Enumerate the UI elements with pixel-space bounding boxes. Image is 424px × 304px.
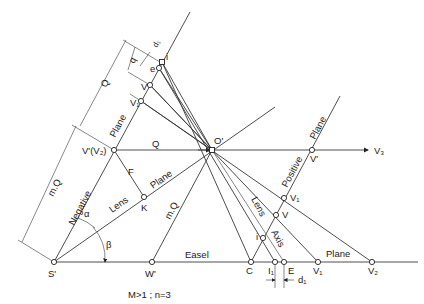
label-negative-plane: Plane [107, 112, 128, 139]
label-f: F [128, 166, 134, 177]
point-v2-bottom [369, 259, 374, 264]
line-labels: Easel Plane Negative Plane Lens Plane Po… [66, 112, 350, 260]
point-c [248, 259, 253, 264]
point-i-right [260, 235, 265, 240]
label-v1-right: V₁ [290, 192, 300, 203]
label-q-horizontal: Q [152, 138, 159, 149]
label-c: C [246, 265, 253, 276]
label-e-top: e [150, 63, 155, 74]
dimension-labels: Q m.Q Q m.Q q d₁ d₁ [45, 38, 306, 285]
point-v-prime-right [309, 147, 314, 152]
angle-labels: α β [84, 208, 112, 250]
label-mq-diag: m.Q [162, 200, 180, 221]
label-e: E [288, 265, 294, 276]
label-w-prime: W' [145, 268, 156, 279]
point-k [141, 194, 146, 199]
label-beta: β [106, 239, 112, 250]
point-v-right [273, 212, 278, 217]
label-d1-bottom: d₁ [298, 274, 307, 285]
label-k: K [141, 202, 148, 213]
label-v2-bottom: V₂ [368, 265, 378, 276]
label-mq-left: m.Q [45, 177, 63, 198]
point-v-prime-v2 [111, 147, 116, 152]
label-i-right: i [256, 231, 258, 242]
label-v-prime-right: V' [310, 153, 318, 164]
label-v3: V₃ [374, 145, 384, 156]
label-o-prime: O' [214, 135, 223, 146]
point-labels: S' W' O' V'(V₂) V' V₃ K F C I₁ E V₁ V₂ i… [48, 51, 384, 279]
point-v-top [147, 82, 152, 87]
label-d1-top: d₁ [151, 38, 162, 49]
points [51, 60, 374, 265]
label-q-left: Q [98, 77, 111, 89]
point-s-prime [51, 259, 56, 264]
point-i1 [272, 259, 277, 264]
angle-arcs [78, 218, 105, 262]
label-v1-bottom: V₁ [313, 265, 323, 276]
mq-line [152, 150, 212, 262]
point-e [281, 259, 286, 264]
label-i-top: i [166, 51, 168, 62]
label-positive-plane: Plane [307, 114, 328, 141]
label-positive: Positive [279, 154, 304, 189]
point-v1-right [281, 195, 286, 200]
label-alpha: α [84, 208, 90, 219]
label-i1: I₁ [268, 265, 274, 276]
label-v-right: V [282, 209, 289, 220]
label-easel: Easel [185, 249, 209, 260]
point-e-top [156, 65, 161, 70]
label-easel-plane: Plane [326, 248, 350, 259]
label-v1-top: V₁ [130, 97, 140, 108]
label-lens-axis-axis: Axis [269, 228, 287, 249]
label-v-prime-v2: V'(V₂) [82, 145, 107, 156]
point-v1-bottom [315, 259, 320, 264]
point-o-prime [210, 148, 215, 153]
label-lens-axis-lens: Lens [249, 195, 269, 219]
label-v-top: V [141, 81, 148, 92]
point-i-top [160, 60, 165, 65]
caption: M>1 ; n=3 [128, 289, 171, 300]
rectification-geometry-diagram: S' W' O' V'(V₂) V' V₃ K F C I₁ E V₁ V₂ i… [0, 0, 424, 304]
label-s-prime: S' [48, 268, 56, 279]
point-w-prime [149, 259, 154, 264]
